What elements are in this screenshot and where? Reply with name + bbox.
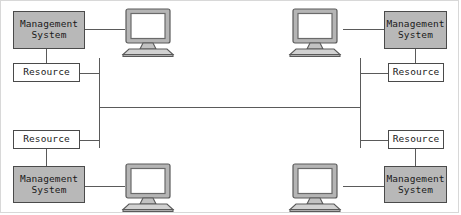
computer-monitor-icon — [120, 8, 176, 58]
link-mgmt-to-monitor-top-left — [85, 29, 125, 30]
computer-monitor-top-left[interactable] — [120, 8, 176, 58]
horizontal-trunk-link — [99, 107, 361, 108]
right-bus-segment — [360, 58, 361, 148]
management-system-bottom-right[interactable]: Management System — [384, 166, 447, 203]
computer-monitor-top-right[interactable] — [287, 8, 343, 58]
computer-monitor-bottom-left[interactable] — [120, 163, 176, 213]
link-mgmt-to-resource-top-right — [415, 49, 416, 63]
link-bus-to-resource-top-right — [360, 73, 388, 74]
management-system-bottom-left[interactable]: Management System — [13, 166, 85, 203]
resource-bottom-right[interactable]: Resource — [388, 130, 444, 149]
link-mgmt-to-monitor-bottom-left — [85, 186, 125, 187]
left-bus-segment — [99, 58, 100, 148]
computer-monitor-icon — [120, 163, 176, 213]
link-resource-to-mgmt-bottom-left — [46, 149, 47, 166]
resource-top-left[interactable]: Resource — [13, 63, 80, 82]
computer-monitor-bottom-right[interactable] — [287, 163, 343, 213]
network-diagram: Management System Resource Management Sy… — [0, 0, 461, 215]
link-mgmt-to-resource-top-left — [46, 49, 47, 63]
management-system-top-right[interactable]: Management System — [384, 11, 447, 49]
computer-monitor-icon — [287, 8, 343, 58]
link-bus-to-resource-bottom-right — [360, 140, 388, 141]
resource-top-right[interactable]: Resource — [388, 63, 444, 82]
link-monitor-to-mgmt-top-right — [343, 29, 384, 30]
link-resource-to-bus-bottom-left — [80, 140, 100, 141]
link-monitor-to-mgmt-bottom-right — [343, 186, 384, 187]
management-system-top-left[interactable]: Management System — [13, 11, 85, 49]
resource-bottom-left[interactable]: Resource — [13, 130, 80, 149]
link-resource-to-bus-top-left — [80, 73, 100, 74]
link-resource-to-mgmt-bottom-right — [415, 149, 416, 166]
computer-monitor-icon — [287, 163, 343, 213]
